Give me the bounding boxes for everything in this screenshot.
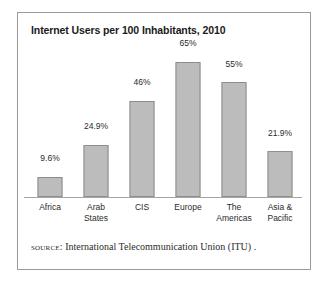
bar-value-africa: 9.6% [40,153,59,163]
bar-group-africa: 9.6% [28,47,72,197]
bar-group-arab-states: 24.9% [74,47,118,197]
bar-value-arab-states: 24.9% [84,121,108,131]
bar-arab-states[interactable] [84,145,109,197]
source-label: source: [31,242,63,252]
bar-group-cis: 46% [120,47,164,197]
bar-europe[interactable] [176,62,201,197]
bars-layer: 9.6% 24.9% 46% 65% 55% 21.9% [28,47,302,197]
x-axis-line [24,197,302,198]
bar-africa[interactable] [38,177,63,197]
x-label-arab-states-line2: States [68,213,124,224]
x-label-asia-pacific: Asia & Pacific [252,202,308,224]
x-label-asia-pacific-line1: Asia & [252,202,308,213]
bar-the-americas[interactable] [222,82,247,197]
bar-cis[interactable] [130,101,155,197]
chart-figure: Internet Users per 100 Inhabitants, 2010… [17,12,311,270]
bar-value-asia-pacific: 21.9% [268,128,292,138]
bar-value-cis: 46% [133,77,150,87]
bar-asia-pacific[interactable] [268,151,293,197]
source-text: International Telecommunication Union (I… [65,241,256,252]
plot-area: 9.6% 24.9% 46% 65% 55% 21.9% [28,47,302,197]
bar-group-europe: 65% [166,47,210,197]
source-note: source: International Telecommunication … [31,241,256,252]
bar-value-europe: 65% [179,38,196,48]
x-label-asia-pacific-line2: Pacific [252,213,308,224]
bar-group-the-americas: 55% [212,47,256,197]
x-axis-category-labels: Africa Arab States CIS Europe The Americ… [28,202,302,236]
bar-group-asia-pacific: 21.9% [258,47,302,197]
bar-value-the-americas: 55% [225,59,242,69]
page-title: Internet Users per 100 Inhabitants, 2010 [31,24,225,36]
